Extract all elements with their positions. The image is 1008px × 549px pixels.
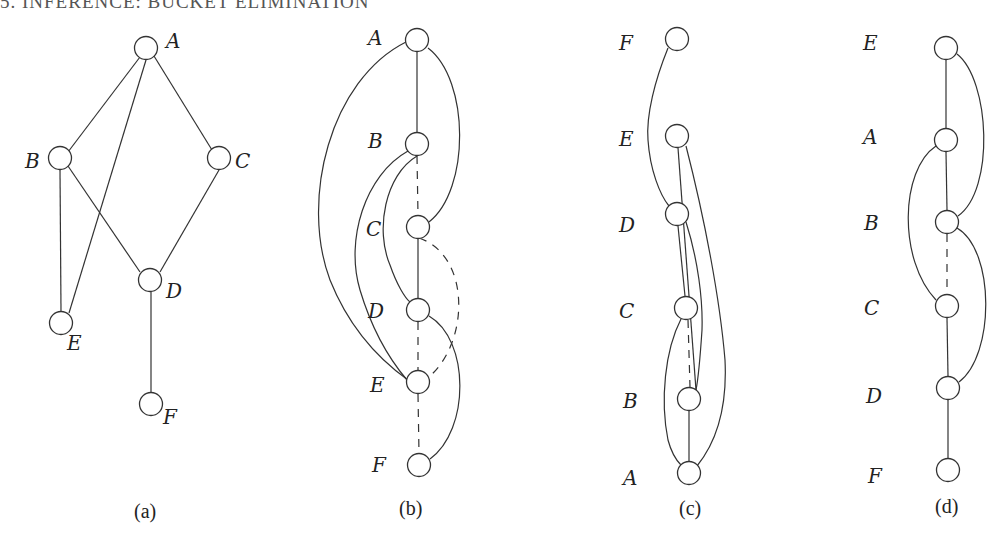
label-b-D: D <box>367 299 384 323</box>
node-d-B <box>936 211 959 234</box>
node-b-E <box>407 371 430 394</box>
edge-a-B-E <box>60 170 61 311</box>
label-c-D: D <box>618 213 635 237</box>
edge-a-A-B <box>68 57 140 152</box>
node-b-A <box>406 29 429 52</box>
label-d-A: A <box>861 125 877 149</box>
node-a-D <box>139 269 162 292</box>
edge-b-B-E <box>355 151 408 380</box>
node-c-E <box>666 125 689 148</box>
edge-d-E-B <box>957 54 984 216</box>
label-b-A: A <box>366 26 382 50</box>
node-d-A <box>935 129 958 152</box>
node-b-B <box>406 133 429 156</box>
label-a-F: F <box>162 405 178 429</box>
edge-b-B-C <box>417 156 418 215</box>
node-c-F <box>666 28 689 51</box>
node-d-E <box>935 37 958 60</box>
label-b-F: F <box>371 453 387 477</box>
edge-c-E-B <box>678 148 696 390</box>
node-a-A <box>135 37 158 60</box>
node-c-A <box>678 462 701 485</box>
graph-figure: A B C D E F (a) A B C D E F (b) <box>0 0 1008 549</box>
label-c-C: C <box>619 299 634 323</box>
edge-b-D-F <box>429 316 460 459</box>
edge-b-A-C <box>428 48 460 222</box>
node-d-F <box>937 459 960 482</box>
label-d-E: E <box>862 31 878 55</box>
caption-b: (b) <box>399 497 422 520</box>
node-d-D <box>937 377 960 400</box>
label-d-B: B <box>863 211 879 235</box>
label-a-C: C <box>235 149 250 173</box>
edge-b-E-F <box>418 394 419 453</box>
label-a-D: D <box>165 279 182 303</box>
edge-c-C-A <box>664 319 681 465</box>
node-a-C <box>208 147 231 170</box>
edge-d-A-B <box>946 152 947 210</box>
panel-c: F E D C B A (c) <box>618 28 725 521</box>
panel-d: E A B C D F (d) <box>861 31 986 518</box>
node-a-F <box>140 393 163 416</box>
node-d-C <box>936 295 959 318</box>
edge-d-C-D <box>947 318 948 376</box>
edge-a-B-D <box>68 166 140 272</box>
edge-c-D-C <box>678 226 685 296</box>
node-c-D <box>666 203 689 226</box>
edge-a-A-E <box>69 60 146 313</box>
node-c-B <box>678 388 701 411</box>
label-d-C: C <box>864 296 879 320</box>
edge-a-C-D <box>160 170 219 272</box>
caption-d: (d) <box>935 495 958 518</box>
label-a-A: A <box>164 29 180 53</box>
panel-b: A B C D E F (b) <box>319 26 460 520</box>
edge-d-B-D <box>957 228 986 382</box>
label-d-F: F <box>867 464 883 488</box>
edge-b-A-E <box>319 42 408 380</box>
node-b-F <box>408 454 431 477</box>
label-c-E: E <box>618 127 634 151</box>
edge-c-C-B <box>688 320 690 387</box>
label-c-F: F <box>618 31 634 55</box>
label-c-B: B <box>622 389 638 413</box>
node-c-C <box>675 297 698 320</box>
label-b-E: E <box>369 373 385 397</box>
node-a-B <box>49 147 72 170</box>
label-a-E: E <box>66 331 82 355</box>
edge-a-A-C <box>154 56 212 150</box>
panel-a: A B C D E F (a) <box>24 29 250 523</box>
caption-a: (a) <box>134 500 156 523</box>
label-b-B: B <box>367 129 383 153</box>
label-b-C: C <box>366 217 381 241</box>
edge-c-F-D <box>648 48 669 206</box>
label-c-A: A <box>621 466 637 490</box>
caption-c: (c) <box>679 497 701 520</box>
node-b-C <box>407 216 430 239</box>
edge-d-A-C <box>908 146 936 300</box>
label-d-D: D <box>865 384 882 408</box>
node-b-D <box>407 299 430 322</box>
label-a-B: B <box>24 149 40 173</box>
